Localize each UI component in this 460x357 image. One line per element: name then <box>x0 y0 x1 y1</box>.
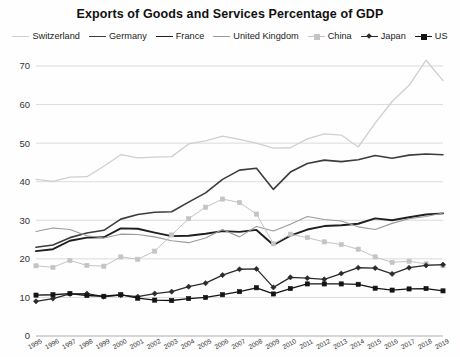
y-axis-tick-label: 0 <box>25 330 30 341</box>
data-point-marker <box>136 257 140 261</box>
x-axis-tick-label: 2007 <box>230 337 247 350</box>
x-axis-tick-label: 2015 <box>366 337 383 350</box>
x-axis-tick-label: 1999 <box>95 337 112 350</box>
data-point-marker <box>68 258 72 262</box>
x-axis-tick-label: 2003 <box>162 337 179 350</box>
series-line <box>36 60 443 181</box>
data-point-marker <box>187 296 191 300</box>
x-axis-tick-label: 2019 <box>434 337 451 350</box>
data-point-marker <box>373 266 378 271</box>
data-point-marker <box>153 249 157 253</box>
data-point-marker <box>203 281 208 286</box>
data-point-marker <box>407 259 411 263</box>
data-point-marker <box>237 200 241 204</box>
x-axis-tick-label: 2001 <box>128 337 145 350</box>
data-point-marker <box>136 296 140 300</box>
series-line <box>36 213 443 251</box>
data-point-marker <box>254 212 258 216</box>
chart-container: Exports of Goods and Services Percentage… <box>0 0 460 357</box>
y-axis-tick-label: 40 <box>19 176 30 187</box>
x-axis-tick-label: 2006 <box>213 337 230 350</box>
x-axis-tick-label: 2011 <box>298 337 314 350</box>
x-axis-tick-label: 1998 <box>78 337 95 350</box>
data-point-marker <box>237 290 241 294</box>
x-axis-tick-label: 2017 <box>400 337 417 350</box>
data-point-marker <box>305 236 309 240</box>
data-point-marker <box>220 197 224 201</box>
data-point-marker <box>424 286 428 290</box>
data-point-marker <box>271 292 275 296</box>
x-axis-tick-label: 2005 <box>196 337 213 350</box>
data-point-marker <box>254 286 258 290</box>
data-point-marker <box>322 282 326 286</box>
data-point-marker <box>390 288 394 292</box>
data-point-marker <box>220 293 224 297</box>
data-point-marker <box>68 291 72 295</box>
data-point-marker <box>203 295 207 299</box>
data-point-marker <box>85 293 89 297</box>
data-point-marker <box>170 233 174 237</box>
x-axis-tick-label: 1996 <box>44 337 61 350</box>
data-point-marker <box>356 265 361 270</box>
series-switzerland <box>36 60 443 181</box>
data-point-marker <box>33 299 38 304</box>
data-point-marker <box>305 276 310 281</box>
data-point-marker <box>153 298 157 302</box>
data-point-marker <box>102 264 106 268</box>
x-axis-tick-label: 2013 <box>332 337 349 350</box>
y-axis-tick-label: 30 <box>19 215 30 226</box>
data-point-marker <box>186 284 191 289</box>
data-point-marker <box>407 287 411 291</box>
data-point-marker <box>406 265 411 270</box>
data-point-marker <box>305 282 309 286</box>
series-france <box>36 213 443 251</box>
data-point-marker <box>169 289 174 294</box>
data-point-marker <box>237 267 242 272</box>
x-axis-tick-label: 2008 <box>247 337 264 350</box>
series-line <box>36 199 443 267</box>
series-us <box>34 282 445 303</box>
data-point-marker <box>51 265 55 269</box>
y-axis-tick-label: 50 <box>19 138 30 149</box>
x-axis-tick-label: 2010 <box>281 337 298 350</box>
data-point-marker <box>390 260 394 264</box>
y-axis-tick-label: 10 <box>19 292 30 303</box>
x-axis-tick-label: 2014 <box>349 337 366 350</box>
x-axis-tick-label: 2016 <box>383 337 400 350</box>
data-point-marker <box>390 271 395 276</box>
chart-plot-area: 0102030405060701995199619971998199920002… <box>0 0 460 357</box>
data-point-marker <box>339 242 343 246</box>
data-point-marker <box>203 205 207 209</box>
x-axis-tick-label: 1997 <box>61 337 78 350</box>
data-point-marker <box>373 255 377 259</box>
data-point-marker <box>220 272 225 277</box>
data-point-marker <box>339 271 344 276</box>
x-axis-tick-label: 2002 <box>145 337 162 350</box>
data-point-marker <box>288 286 292 290</box>
data-point-marker <box>322 277 327 282</box>
data-point-marker <box>152 291 157 296</box>
data-point-marker <box>102 294 106 298</box>
data-point-marker <box>187 217 191 221</box>
data-point-marker <box>170 298 174 302</box>
data-point-marker <box>119 255 123 259</box>
x-axis-tick-label: 2012 <box>315 337 332 350</box>
data-point-marker <box>356 247 360 251</box>
x-axis-tick-label: 2004 <box>179 337 196 350</box>
data-point-marker <box>119 293 123 297</box>
data-point-marker <box>85 263 89 267</box>
y-axis-tick-label: 70 <box>19 60 30 71</box>
x-axis-tick-label: 2000 <box>111 337 128 350</box>
data-point-marker <box>51 293 55 297</box>
data-point-marker <box>288 232 292 236</box>
data-point-marker <box>373 286 377 290</box>
data-point-marker <box>339 282 343 286</box>
data-point-marker <box>356 282 360 286</box>
x-axis-tick-label: 2009 <box>264 337 281 350</box>
x-axis-tick-label: 2018 <box>417 337 434 350</box>
data-point-marker <box>34 264 38 268</box>
data-point-marker <box>322 240 326 244</box>
data-point-marker <box>34 293 38 297</box>
y-axis-tick-label: 60 <box>19 99 30 110</box>
data-point-marker <box>441 289 445 293</box>
